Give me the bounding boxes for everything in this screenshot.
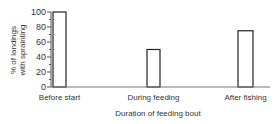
x-tick-label: After fishing <box>224 93 266 102</box>
y-tick-label: 20 <box>36 67 46 77</box>
x-tick-label: Before start <box>39 93 81 102</box>
bar-before-start <box>53 12 66 87</box>
x-tick-label: During feeding <box>127 93 179 102</box>
y-tick-label: 60 <box>36 37 46 47</box>
x-axis-tick-labels: Before startDuring feedingAfter fishing <box>39 93 267 102</box>
bars <box>53 12 253 87</box>
y-axis-title-line-1: % of landings <box>9 26 18 74</box>
bar-chart: % of landings with sprainting 0204060801… <box>0 0 280 124</box>
bar-during-feeding <box>147 50 160 88</box>
x-axis-title: Duration of feeding bout <box>115 109 201 118</box>
y-tick-label: 40 <box>36 52 46 62</box>
bar-after-fishing <box>238 31 253 87</box>
y-tick-label: 80 <box>36 22 46 32</box>
y-axis-ticks: 020406080100 <box>31 7 51 92</box>
y-tick-label: 0 <box>41 82 46 92</box>
y-axis-title-line-2: with sprainting <box>18 24 27 76</box>
y-axis-title: % of landings with sprainting <box>9 24 27 76</box>
y-tick-label: 100 <box>31 7 46 17</box>
